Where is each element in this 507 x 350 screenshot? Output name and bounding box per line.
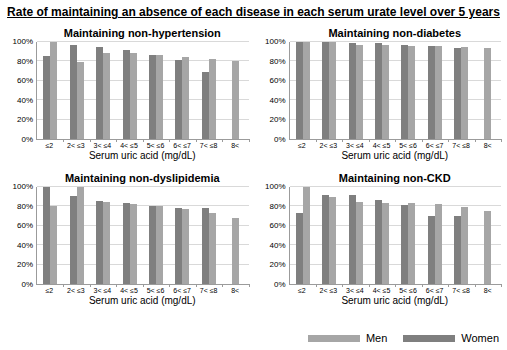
bar-women <box>149 55 156 139</box>
axis-tick <box>90 284 91 287</box>
bar-group <box>37 187 63 284</box>
y-axis: 0%20%40%60%80%100% <box>261 187 289 285</box>
x-tick-label: 4< ≤5 <box>368 285 395 294</box>
bar-women <box>375 43 382 139</box>
x-tick-label: 3< ≤4 <box>89 140 116 149</box>
axis-tick <box>475 139 476 142</box>
bar-men <box>77 187 84 284</box>
chart-title: Maintaining non-diabetes <box>289 24 502 42</box>
x-tick-label: 8< <box>222 285 249 294</box>
bar-groups <box>37 42 249 139</box>
axis-tick <box>369 284 370 287</box>
bar-group <box>116 187 142 284</box>
bar-groups <box>290 187 502 284</box>
legend: Men Women <box>308 332 499 344</box>
axis-tick <box>342 139 343 142</box>
bar-women <box>175 208 182 284</box>
bar-men <box>484 48 491 139</box>
bar-men <box>408 203 415 284</box>
x-tick-label: 3< ≤4 <box>342 285 369 294</box>
bar-men <box>461 47 468 139</box>
axis-tick <box>169 139 170 142</box>
x-tick-label: ≤2 <box>36 140 63 149</box>
axis-tick <box>222 139 223 142</box>
x-tick-label: 8< <box>474 140 501 149</box>
bar-men <box>408 46 415 139</box>
x-tick-label: 2< ≤3 <box>63 140 90 149</box>
axis-tick <box>369 139 370 142</box>
bar-women <box>202 72 209 139</box>
axis-tick <box>448 284 449 287</box>
bar-women <box>96 201 103 284</box>
x-tick-label: 8< <box>474 285 501 294</box>
bar-groups <box>290 42 502 139</box>
bar-men <box>209 59 216 140</box>
bar-group <box>63 187 89 284</box>
x-axis-title: Serum uric acid (mg/dL) <box>36 294 249 308</box>
axis-tick <box>116 139 117 142</box>
x-tick-label: 6< ≤7 <box>421 285 448 294</box>
x-tick-label: 7< ≤8 <box>448 285 475 294</box>
bar-group <box>222 187 248 284</box>
x-tick-label: 7< ≤8 <box>195 285 222 294</box>
x-tick-label: 4< ≤5 <box>116 140 143 149</box>
x-tick-label: ≤2 <box>289 285 316 294</box>
axis-tick <box>395 284 396 287</box>
chart-maintaining-non-ckd: Maintaining non-CKD 0%20%40%60%80%100% ≤… <box>261 169 502 308</box>
bar-women <box>296 213 303 284</box>
chart-title: Maintaining non-CKD <box>289 169 502 187</box>
axis-tick <box>501 139 502 142</box>
bar-men <box>232 218 239 284</box>
bar-group <box>448 187 474 284</box>
x-tick-label: 6< ≤7 <box>169 140 196 149</box>
axis-tick <box>316 139 317 142</box>
x-tick-label: 5< ≤6 <box>142 140 169 149</box>
x-tick-label: 2< ≤3 <box>315 285 342 294</box>
y-tick-label: 20% <box>17 116 33 124</box>
y-tick-label: 60% <box>269 222 285 230</box>
bar-women <box>401 45 408 139</box>
x-tick-label: ≤2 <box>289 140 316 149</box>
bar-women <box>401 205 408 284</box>
bar-group <box>169 187 195 284</box>
bar-men <box>103 53 110 139</box>
bar-women <box>322 195 329 284</box>
bar-men <box>484 211 491 284</box>
bar-group <box>116 42 142 139</box>
axis-tick <box>249 284 250 287</box>
y-tick-label: 20% <box>269 116 285 124</box>
bar-group <box>395 42 421 139</box>
bar-men <box>182 57 189 139</box>
x-axis-title: Serum uric acid (mg/dL) <box>289 294 502 308</box>
x-axis-title: Serum uric acid (mg/dL) <box>289 149 502 163</box>
bar-men <box>50 206 57 284</box>
bar-men <box>329 197 336 284</box>
bar-men <box>382 45 389 139</box>
axis-tick <box>169 284 170 287</box>
bar-group <box>196 187 222 284</box>
bar-group <box>369 42 395 139</box>
bar-women <box>70 196 77 284</box>
axis-tick <box>448 139 449 142</box>
plot-area <box>289 42 502 140</box>
bar-women <box>149 206 156 284</box>
axis-tick <box>143 284 144 287</box>
bar-women <box>454 48 461 139</box>
bar-women <box>202 208 209 284</box>
bar-women <box>70 45 77 139</box>
plot-row: 0%20%40%60%80%100% <box>8 42 249 140</box>
chart-maintaining-non-diabetes: Maintaining non-diabetes 0%20%40%60%80%1… <box>261 24 502 163</box>
y-tick-label: 0% <box>274 281 286 289</box>
axis-tick <box>395 139 396 142</box>
bar-men <box>435 204 442 285</box>
bar-men <box>232 61 239 139</box>
bar-men <box>329 42 336 139</box>
bar-group <box>342 42 368 139</box>
y-tick-label: 20% <box>269 261 285 269</box>
bar-women <box>43 187 50 284</box>
axis-tick <box>63 139 64 142</box>
axis-tick <box>475 284 476 287</box>
chart-maintaining-non-hypertension: Maintaining non-hypertension 0%20%40%60%… <box>8 24 249 163</box>
bar-group <box>290 42 316 139</box>
bar-men <box>77 62 84 139</box>
